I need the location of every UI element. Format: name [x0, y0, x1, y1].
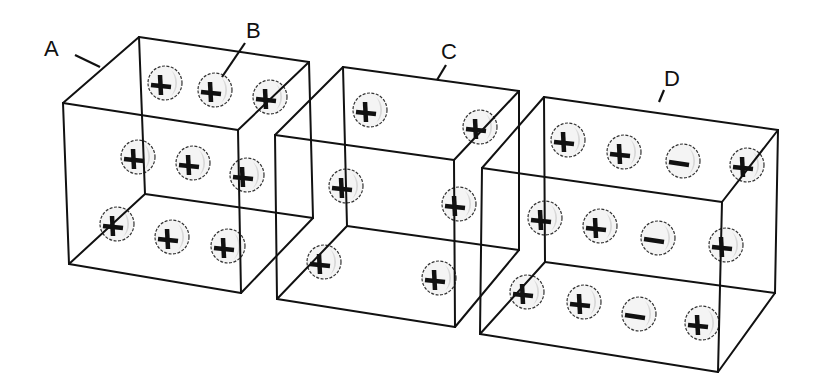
cube-edge — [480, 168, 482, 334]
cube-edge — [139, 37, 309, 62]
cube-edge — [455, 250, 519, 327]
cube-edge — [544, 97, 545, 262]
negative-charge — [622, 297, 656, 331]
positive-charge — [121, 140, 155, 174]
cube-edge — [343, 67, 519, 91]
leader-line-a — [75, 55, 100, 67]
positive-charge — [198, 73, 232, 107]
positive-charge — [230, 158, 264, 192]
positive-charge — [583, 209, 617, 243]
cube-edge — [275, 135, 277, 299]
cube-d — [480, 97, 778, 372]
cube-edge — [718, 293, 775, 372]
cube-edge — [775, 130, 778, 293]
positive-charge — [685, 306, 719, 340]
positive-charge — [442, 187, 476, 221]
positive-charge — [510, 275, 544, 309]
label-d: D — [664, 68, 680, 90]
positive-charge — [607, 135, 641, 169]
label-a: A — [44, 38, 59, 60]
positive-charge — [353, 93, 387, 127]
cube-edge — [145, 194, 313, 218]
cube-edge — [347, 226, 519, 250]
leader-line-d — [659, 90, 664, 102]
positive-charge — [422, 261, 456, 295]
negative-charge — [641, 221, 675, 255]
cube-edge — [275, 135, 454, 160]
cube-edge — [544, 97, 778, 130]
positive-charge — [567, 285, 601, 319]
label-c: C — [441, 41, 457, 63]
cube-edge — [277, 299, 455, 327]
cube-edge — [69, 264, 241, 293]
cube-edge — [63, 103, 69, 264]
positive-charge — [551, 123, 585, 157]
positive-charge — [253, 80, 287, 114]
positive-charge — [148, 66, 182, 100]
positive-charge — [463, 110, 497, 144]
cube-edge — [718, 202, 722, 372]
cube-edge — [238, 130, 241, 293]
cube-edge — [63, 37, 139, 103]
leader-line-c — [437, 65, 446, 80]
cube-edge — [454, 160, 455, 327]
positive-charge — [100, 207, 134, 241]
charged-cubes-diagram — [0, 0, 826, 385]
leader-line-b — [222, 43, 245, 77]
cube-edge — [480, 334, 718, 372]
positive-charge — [155, 220, 189, 254]
label-b: B — [246, 20, 261, 42]
positive-charge — [176, 146, 210, 180]
cube-edge — [238, 62, 309, 130]
positive-charge — [709, 228, 743, 262]
negative-charge — [666, 144, 700, 178]
